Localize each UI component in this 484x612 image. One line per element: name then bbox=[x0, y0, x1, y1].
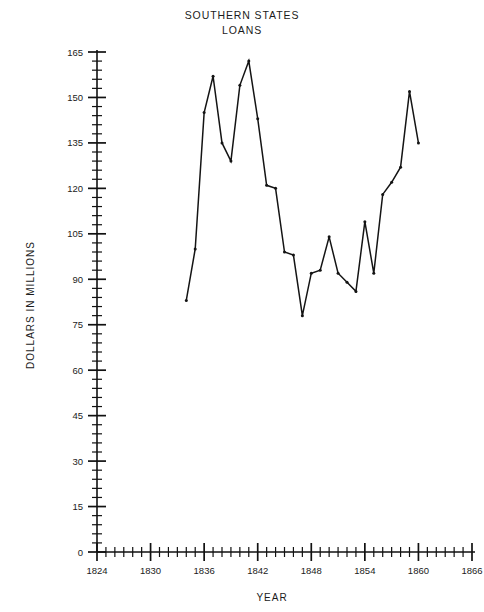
chart-canvas: 0153045607590105120135150165 18241830183… bbox=[0, 0, 484, 612]
series-data-point bbox=[408, 90, 411, 93]
y-tick-label: 45 bbox=[72, 410, 83, 421]
series-data-point bbox=[346, 281, 349, 284]
y-tick-label: 120 bbox=[67, 183, 83, 194]
series-data-point bbox=[229, 160, 232, 163]
series-data-point bbox=[337, 272, 340, 275]
series-data-point bbox=[372, 272, 375, 275]
x-axis-title: YEAR bbox=[256, 592, 287, 603]
series-data-point bbox=[417, 141, 420, 144]
chart-figure: SOUTHERN STATES LOANS 015304560759010512… bbox=[0, 0, 484, 612]
series-data-point bbox=[274, 187, 277, 190]
x-tick-label: 1836 bbox=[194, 565, 215, 576]
data-series-loans bbox=[185, 60, 420, 318]
series-data-point bbox=[381, 193, 384, 196]
series-data-point bbox=[319, 269, 322, 272]
series-data-point bbox=[283, 251, 286, 254]
series-data-point bbox=[185, 299, 188, 302]
y-tick-label: 75 bbox=[72, 319, 83, 330]
series-data-point bbox=[301, 314, 304, 317]
series-data-point bbox=[203, 111, 206, 114]
series-data-point bbox=[265, 184, 268, 187]
series-data-point bbox=[399, 166, 402, 169]
series-data-point bbox=[247, 60, 250, 63]
y-tick-label: 0 bbox=[78, 547, 83, 558]
x-tick-label: 1860 bbox=[408, 565, 429, 576]
y-tick-label: 105 bbox=[67, 228, 83, 239]
x-tick-label: 1830 bbox=[140, 565, 161, 576]
series-data-point bbox=[328, 235, 331, 238]
y-tick-label: 150 bbox=[67, 92, 83, 103]
y-axis-title: DOLLARS IN MILLIONS bbox=[25, 241, 36, 369]
y-tick-label: 15 bbox=[72, 501, 83, 512]
series-data-point bbox=[212, 75, 215, 78]
y-tick-label: 60 bbox=[72, 365, 83, 376]
y-tick-label: 135 bbox=[67, 137, 83, 148]
series-data-point bbox=[310, 272, 313, 275]
y-axis: 0153045607590105120135150165 bbox=[67, 47, 106, 558]
x-tick-label: 1842 bbox=[247, 565, 268, 576]
y-tick-label: 90 bbox=[72, 274, 83, 285]
x-axis: 18241830183618421848185418601866 bbox=[86, 543, 482, 576]
x-tick-label: 1848 bbox=[301, 565, 322, 576]
series-polyline bbox=[186, 61, 418, 316]
series-data-point bbox=[194, 247, 197, 250]
series-data-point bbox=[256, 117, 259, 120]
x-tick-label: 1866 bbox=[461, 565, 482, 576]
series-data-point bbox=[363, 220, 366, 223]
y-tick-label: 165 bbox=[67, 47, 83, 58]
series-data-point bbox=[221, 141, 224, 144]
x-tick-label: 1854 bbox=[354, 565, 375, 576]
series-data-point bbox=[390, 181, 393, 184]
y-tick-label: 30 bbox=[72, 456, 83, 467]
x-tick-label: 1824 bbox=[86, 565, 107, 576]
series-data-point bbox=[292, 254, 295, 257]
series-data-point bbox=[354, 290, 357, 293]
series-data-point bbox=[238, 84, 241, 87]
